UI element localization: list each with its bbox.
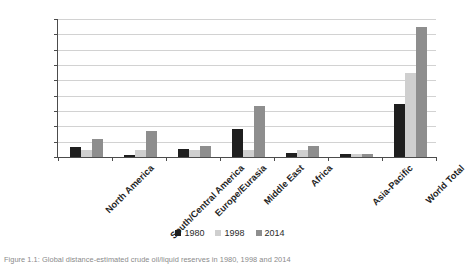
bar: [146, 131, 157, 157]
bar: [405, 73, 416, 157]
y-axis-tick: [54, 96, 58, 97]
x-axis-label: Asia-Pacific: [371, 163, 415, 207]
legend-label: 1998: [224, 228, 244, 238]
bar: [416, 27, 427, 157]
legend-item: 1980: [175, 228, 204, 238]
legend-item: 2014: [256, 228, 285, 238]
bar-group: [391, 19, 427, 157]
bar: [308, 146, 319, 157]
chart-legend: 198019982014: [0, 228, 460, 238]
legend-label: 2014: [265, 228, 285, 238]
x-axis-tick: [382, 157, 383, 161]
x-axis-tick: [58, 157, 59, 161]
x-axis-label: North America: [104, 163, 156, 215]
legend-swatch: [256, 230, 262, 236]
bar: [200, 146, 211, 158]
bar-group: [283, 19, 319, 157]
bar: [394, 104, 405, 157]
x-axis-tick: [328, 157, 329, 161]
bar-group: [229, 19, 265, 157]
y-axis-tick: [54, 19, 58, 20]
legend-swatch: [175, 230, 181, 236]
x-axis-tick: [112, 157, 113, 161]
y-axis-tick: [54, 111, 58, 112]
y-axis-tick: [54, 142, 58, 143]
x-axis-tick: [166, 157, 167, 161]
x-axis-tick: [220, 157, 221, 161]
x-axis-tick: [436, 157, 437, 161]
y-axis-tick: [54, 50, 58, 51]
bar-group: [175, 19, 211, 157]
legend-label: 1980: [184, 228, 204, 238]
bar: [340, 154, 351, 157]
y-axis-tick: [54, 34, 58, 35]
y-axis-tick: [54, 80, 58, 81]
bar: [124, 155, 135, 157]
bar: [351, 154, 362, 157]
bar: [189, 150, 200, 157]
x-axis-label: Middle East: [262, 163, 306, 207]
bar-group: [67, 19, 103, 157]
bar: [178, 149, 189, 157]
bar: [92, 139, 103, 157]
bar: [297, 150, 308, 157]
x-axis-tick: [274, 157, 275, 161]
bar: [232, 129, 243, 157]
x-axis-label: World Total: [424, 163, 466, 206]
bar: [243, 150, 254, 157]
bar: [81, 150, 92, 157]
x-axis-label: Africa: [309, 163, 335, 189]
bar-group: [337, 19, 373, 157]
bar: [286, 153, 297, 157]
bar: [254, 106, 265, 157]
bar: [70, 147, 81, 157]
figure-caption: Figure 1.1: Global distance-estimated cr…: [4, 255, 291, 264]
bar: [362, 154, 373, 157]
plot-area: [57, 19, 436, 158]
bar: [135, 150, 146, 157]
y-axis-tick: [54, 126, 58, 127]
bar-group: [121, 19, 157, 157]
y-axis-tick: [54, 65, 58, 66]
legend-swatch: [215, 230, 221, 236]
legend-item: 1998: [215, 228, 244, 238]
